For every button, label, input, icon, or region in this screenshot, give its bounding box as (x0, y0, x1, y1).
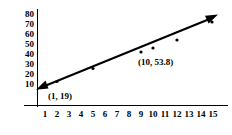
trend-line (41, 18, 212, 88)
x-tick-label: 15 (209, 109, 219, 119)
x-tick-label: 3 (67, 109, 72, 119)
x-tick-label: 12 (173, 109, 183, 119)
x-tick-label: 7 (115, 109, 120, 119)
y-tick-label: 40 (25, 49, 35, 59)
x-tick-label: 4 (79, 109, 84, 119)
x-tick-label: 2 (55, 109, 60, 119)
data-point-marker (175, 38, 178, 41)
x-tick-label: 13 (185, 109, 195, 119)
x-tick-label: 11 (161, 109, 170, 119)
y-tick-label: 70 (25, 19, 35, 29)
x-tick-label: 5 (91, 109, 96, 119)
data-point-marker (151, 46, 154, 49)
point-label-10-53-8: (10, 53.8) (138, 57, 173, 67)
data-point-marker (91, 67, 94, 70)
data-point-marker (55, 80, 58, 83)
point-label-1-19: (1, 19) (48, 91, 72, 101)
y-tick-label: 30 (25, 59, 35, 69)
x-tick-label: 14 (197, 109, 207, 119)
y-tick-label: 50 (25, 39, 35, 49)
x-tick-label: 8 (127, 109, 132, 119)
y-tick-label: 80 (25, 9, 35, 19)
data-point-marker (139, 50, 142, 53)
plot-area: 80 70 60 50 40 30 20 10 1 2 3 4 5 6 7 8 … (0, 0, 232, 135)
y-tick-label: 60 (25, 29, 35, 39)
x-tick-label: 10 (149, 109, 159, 119)
x-tick-label: 1 (43, 109, 48, 119)
data-point-marker (43, 84, 46, 87)
scatter-plot-chart: 80 70 60 50 40 30 20 10 1 2 3 4 5 6 7 8 … (0, 0, 232, 135)
y-tick-label: 10 (25, 79, 35, 89)
data-point-marker (210, 20, 213, 23)
x-tick-label: 6 (103, 109, 108, 119)
y-tick-label: 20 (25, 69, 35, 79)
x-tick-label: 9 (139, 109, 144, 119)
